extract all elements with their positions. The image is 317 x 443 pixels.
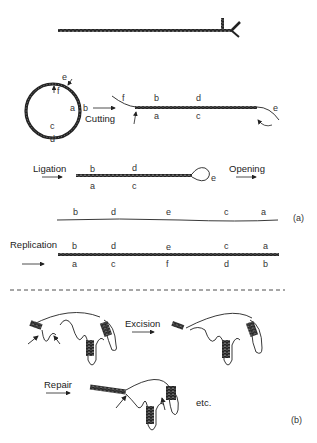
- loop-label-e: e: [211, 174, 216, 183]
- rep-bot-c: c: [111, 260, 116, 269]
- ss-label-a: a: [261, 208, 266, 217]
- cut-label-a: a: [154, 112, 159, 121]
- ss-label-d: d: [111, 208, 116, 217]
- ss-label-e: e: [166, 208, 171, 217]
- replicated-duplex: [58, 253, 279, 256]
- rep-bot-f: f: [166, 260, 169, 269]
- hairpin-duplex: [76, 168, 209, 181]
- cut-label-c: c: [196, 112, 201, 121]
- cut-label-d: d: [196, 94, 201, 103]
- circle-label-c: c: [50, 122, 55, 131]
- lig-label-c: c: [132, 182, 137, 191]
- circle-label-e: e: [62, 73, 67, 82]
- cut-label-f: f: [122, 94, 125, 103]
- lig-label-b: b: [90, 165, 95, 174]
- ss-label-c: c: [224, 208, 229, 217]
- replication-label: Replication: [10, 240, 57, 250]
- lig-label-a: a: [90, 182, 95, 191]
- circle-label-b: b: [83, 104, 88, 113]
- lig-label-d: d: [132, 164, 137, 173]
- excision-label: Excision: [125, 319, 160, 329]
- rep-top-a: a: [263, 242, 268, 251]
- circle-label-a: a: [70, 104, 75, 113]
- panel-label-b: (b): [291, 416, 302, 425]
- rep-bot-d: d: [224, 260, 229, 269]
- circle-label-f: f: [57, 87, 60, 96]
- rep-bot-b: b: [263, 260, 268, 269]
- repair-label: Repair: [44, 380, 72, 390]
- circle-label-d: d: [50, 135, 55, 144]
- rep-top-c: c: [224, 242, 229, 251]
- rep-bot-a: a: [72, 260, 77, 269]
- rep-top-b: b: [72, 242, 77, 251]
- cut-label-e: e: [273, 104, 278, 113]
- opening-label: Opening: [229, 164, 265, 174]
- diagram-canvas: [0, 0, 317, 443]
- rep-top-d: d: [111, 242, 116, 251]
- ligation-label: Ligation: [33, 164, 66, 174]
- bulge-structure-2: [171, 313, 262, 365]
- cutting-label: Cutting: [85, 114, 115, 124]
- cut-label-b: b: [154, 94, 159, 103]
- etc-label: etc.: [196, 398, 211, 408]
- panel-label-a: (a): [293, 214, 304, 223]
- rep-top-e: e: [166, 243, 171, 252]
- ss-label-b: b: [73, 208, 78, 217]
- bulge-structure-1: [28, 313, 117, 366]
- top-linear-dna: [58, 18, 240, 37]
- repaired-structure: [90, 379, 179, 430]
- single-strand: [57, 219, 278, 221]
